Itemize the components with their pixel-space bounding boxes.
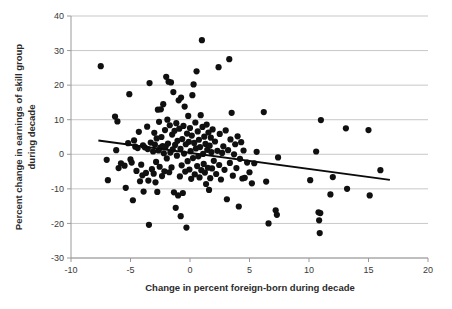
data-point (318, 117, 324, 123)
data-point (365, 127, 371, 133)
data-point (207, 175, 213, 181)
data-point (160, 101, 166, 107)
data-point (179, 136, 185, 142)
data-point (219, 150, 225, 156)
data-point (203, 181, 209, 187)
data-point (249, 180, 255, 186)
y-tick-label-20: 20 (54, 80, 64, 90)
data-point (138, 162, 144, 168)
data-point (227, 160, 233, 166)
data-point (206, 187, 212, 193)
data-point (168, 79, 174, 85)
data-point (151, 171, 157, 177)
data-point (204, 121, 210, 127)
data-point (104, 157, 110, 163)
data-point (144, 124, 150, 130)
data-point (235, 133, 241, 139)
data-point (170, 89, 176, 95)
data-point (146, 222, 152, 228)
data-point (236, 203, 242, 209)
data-point (224, 196, 230, 202)
data-point (130, 197, 136, 203)
data-point (150, 148, 156, 154)
y-tick-label--30: -30 (51, 253, 64, 263)
data-point (343, 125, 349, 131)
data-point (208, 149, 214, 155)
y-tick-label-10: 10 (54, 115, 64, 125)
data-point (275, 154, 281, 160)
x-tick-label--10: -10 (64, 265, 77, 275)
data-point (213, 171, 219, 177)
data-point (180, 123, 186, 129)
data-point (185, 158, 191, 164)
data-point (313, 148, 319, 154)
data-point (156, 119, 162, 125)
data-point (307, 177, 313, 183)
data-point (263, 179, 269, 185)
data-point (242, 175, 248, 181)
data-point (98, 63, 104, 69)
x-tick-label-15: 15 (363, 265, 373, 275)
data-point (190, 81, 196, 87)
data-point (199, 37, 205, 43)
y-axis-title-line1: Percent change in earnings of skill grou… (13, 44, 24, 231)
data-point (196, 137, 202, 143)
data-point (233, 165, 239, 171)
data-point (230, 173, 236, 179)
data-point (137, 178, 143, 184)
data-point (316, 217, 322, 223)
data-point (189, 133, 195, 139)
x-tick-label--5: -5 (126, 265, 134, 275)
data-point (105, 177, 111, 183)
data-point (168, 164, 174, 170)
data-point (152, 142, 158, 148)
data-point (211, 158, 217, 164)
data-point (215, 64, 221, 70)
data-point (113, 147, 119, 153)
data-point (189, 92, 195, 98)
data-point (158, 134, 164, 140)
y-tick-label-30: 30 (54, 46, 64, 56)
y-tick-label--10: -10 (51, 184, 64, 194)
data-point (367, 192, 373, 198)
data-point (240, 147, 246, 153)
data-point (114, 118, 120, 124)
data-point (238, 139, 244, 145)
data-point (178, 94, 184, 100)
data-point (261, 109, 267, 115)
data-point (232, 141, 238, 147)
data-point (152, 179, 158, 185)
data-point (179, 162, 185, 168)
data-point (265, 220, 271, 226)
data-point (162, 127, 168, 133)
data-point (197, 144, 203, 150)
data-point (131, 137, 137, 143)
data-point (161, 150, 167, 156)
data-point (136, 129, 142, 135)
data-point (223, 127, 229, 133)
data-point (154, 189, 160, 195)
data-point (164, 155, 170, 161)
data-point (182, 103, 188, 109)
x-tick-label-10: 10 (304, 265, 314, 275)
x-tick-label-5: 5 (247, 265, 252, 275)
data-point (126, 91, 132, 97)
data-point (209, 165, 215, 171)
data-point (129, 159, 135, 165)
data-point (178, 213, 184, 219)
data-point (165, 140, 171, 146)
data-point (210, 126, 216, 132)
data-point (186, 166, 192, 172)
data-point (177, 173, 183, 179)
data-point (187, 125, 193, 131)
data-point (221, 167, 227, 173)
data-point (216, 162, 222, 168)
data-point (317, 230, 323, 236)
data-point (227, 136, 233, 142)
x-axis-title: Change in percent foreign-born during de… (145, 282, 355, 293)
data-point (212, 138, 218, 144)
data-point (190, 155, 196, 161)
data-point (218, 176, 224, 182)
data-point (195, 128, 201, 134)
data-point (151, 130, 157, 136)
